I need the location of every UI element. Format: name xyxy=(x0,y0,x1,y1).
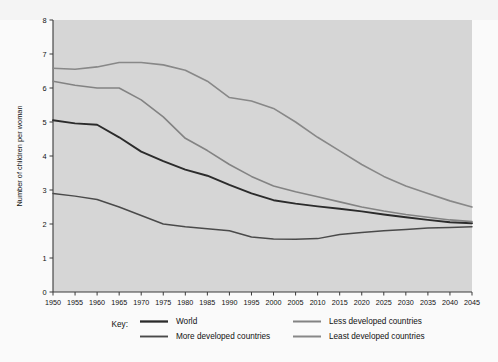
y-tick-label: 8 xyxy=(42,16,46,25)
x-tick-label: 2015 xyxy=(332,298,348,307)
x-tick-label: 1955 xyxy=(67,298,83,307)
x-tick-label: 1960 xyxy=(89,298,105,307)
legend-label-less-developed-countries: Less developed countries xyxy=(329,317,422,326)
x-tick-label: 2000 xyxy=(266,298,282,307)
x-tick-label: 2010 xyxy=(310,298,326,307)
x-tick-label: 1965 xyxy=(111,298,127,307)
plot-area-background xyxy=(53,20,472,292)
x-tick-label: 1995 xyxy=(243,298,259,307)
y-tick-label: 5 xyxy=(42,118,46,127)
y-axis-title-text: Number of children per woman xyxy=(15,105,24,206)
legend-label-more-developed-countries: More developed countries xyxy=(176,332,270,341)
y-tick-label: 0 xyxy=(42,288,46,297)
y-axis-title: Number of children per woman xyxy=(15,105,24,206)
y-tick-label: 7 xyxy=(42,50,46,59)
chart-figure: 012345678 195019551960196519701975198019… xyxy=(0,0,498,362)
legend-label-least-developed-countries: Least developed countries xyxy=(329,332,425,341)
x-tick-label: 2045 xyxy=(464,298,480,307)
x-tick-label: 2040 xyxy=(442,298,458,307)
x-tick-label: 1975 xyxy=(155,298,171,307)
x-tick-label: 2005 xyxy=(288,298,304,307)
x-tick-label: 1990 xyxy=(221,298,237,307)
x-tick-label: 1950 xyxy=(45,298,61,307)
legend-label-world: World xyxy=(176,317,198,326)
x-tick-label: 2020 xyxy=(354,298,370,307)
y-tick-label: 2 xyxy=(42,220,46,229)
x-tick-label: 1970 xyxy=(133,298,149,307)
fertility-line-chart: 012345678 195019551960196519701975198019… xyxy=(0,0,498,362)
y-axis-ticks: 012345678 xyxy=(42,16,53,297)
x-tick-label: 1985 xyxy=(199,298,215,307)
y-tick-label: 1 xyxy=(42,254,46,263)
x-tick-label: 2030 xyxy=(398,298,414,307)
chart-legend: Key:WorldMore developed countriesLess de… xyxy=(112,317,425,341)
legend-key-label: Key: xyxy=(112,320,128,329)
x-tick-label: 1980 xyxy=(177,298,193,307)
x-tick-label: 2025 xyxy=(376,298,392,307)
y-tick-label: 4 xyxy=(42,152,46,161)
x-axis-ticks: 1950195519601965197019751980198519901995… xyxy=(45,292,480,307)
y-tick-label: 3 xyxy=(42,186,46,195)
x-tick-label: 2035 xyxy=(420,298,436,307)
y-tick-label: 6 xyxy=(42,84,46,93)
